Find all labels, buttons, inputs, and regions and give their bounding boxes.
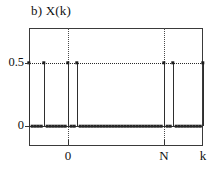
impulse-stem <box>29 63 30 126</box>
impulse-stem <box>164 63 165 126</box>
impulse-stem-head <box>162 61 165 64</box>
zero-sample-dot <box>160 125 163 128</box>
figure-dft-magnitude-plot: b) X(k) 0.5 0 0 N k <box>0 0 213 170</box>
impulse-stem <box>68 63 69 126</box>
impulse-stem-head <box>42 61 45 64</box>
plot-area <box>29 28 203 146</box>
zero-sample-dot <box>64 125 67 128</box>
impulse-stem-head <box>171 61 174 64</box>
x-axis-label-k: k <box>191 149 213 163</box>
impulse-stem <box>203 63 204 126</box>
zero-sample-dot <box>40 125 43 128</box>
impulse-stem-head <box>66 61 69 64</box>
zero-sample-dot <box>169 125 172 128</box>
zero-sample-dot <box>73 125 76 128</box>
y-axis-label-0point5: 0.5 <box>0 56 24 69</box>
y-tick-0 <box>25 126 30 127</box>
x-tick-0 <box>68 140 69 145</box>
impulse-stem <box>77 63 78 126</box>
impulse-stem <box>173 63 174 126</box>
impulse-stem <box>44 63 45 126</box>
x-axis-label-0: 0 <box>56 149 80 163</box>
gridline-horizontal-0point5 <box>29 63 203 64</box>
x-axis-label-N: N <box>152 149 176 163</box>
zero-sample-dot <box>199 125 202 128</box>
x-tick-N <box>164 140 165 145</box>
impulse-stem-head <box>75 61 78 64</box>
impulse-stem-head <box>201 61 204 64</box>
figure-title: b) X(k) <box>31 3 71 18</box>
y-axis-label-0: 0 <box>0 119 24 132</box>
y-tick-0point5 <box>25 63 30 64</box>
